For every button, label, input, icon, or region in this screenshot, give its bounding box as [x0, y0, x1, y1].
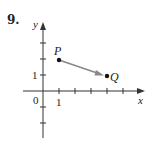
origin-label: 0	[33, 94, 39, 106]
point-p-label: P	[53, 44, 62, 58]
point-q-label: Q	[110, 70, 119, 84]
y-tick-label-1: 1	[32, 69, 38, 81]
point-q	[105, 74, 109, 78]
y-axis-label: y	[32, 18, 38, 30]
x-tick-label-1: 1	[56, 96, 62, 108]
y-axis-arrow-icon	[40, 22, 46, 30]
coordinate-plane: P Q y x 0 1 1	[0, 0, 149, 145]
vector-pq	[59, 60, 100, 74]
x-axis-label: x	[137, 94, 143, 106]
point-p	[57, 58, 61, 62]
vector-arrowhead-icon	[95, 70, 105, 76]
